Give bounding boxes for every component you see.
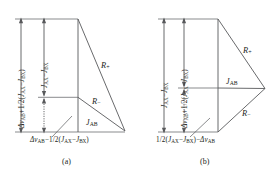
- outer-arrowhead-bottom: [19, 128, 23, 134]
- panel-b-r-plus-label: R+: [243, 47, 252, 55]
- panel-a-caption: (a): [62, 157, 71, 166]
- j-ab-vector: [218, 88, 265, 89]
- inner-lower-arrowhead-top: [42, 98, 46, 104]
- panel-a-outer-span-label: ΔνAB+1/2(JAX−JBX): [19, 69, 26, 128]
- inner-lower-arrowhead-bottom: [42, 128, 46, 134]
- inner-arrowhead-top: [182, 18, 186, 24]
- bottom-label-leader-line: [190, 118, 210, 137]
- panel-a-r-plus-label: R+: [101, 62, 110, 70]
- panel-a-bottom-span-label: ΔνAB−1/2(JAX−JBX): [30, 137, 89, 144]
- outer-arrowhead-top: [162, 18, 166, 24]
- figure-root: ΔνAB+1/2(JAX−JBX) JAX−JBX R+ R− JAB ΔνAB…: [0, 0, 280, 177]
- panel-b: JAX−JBX ΔνAB+1/2(JAX−JBX) R+ JAB R− 1/2(…: [140, 0, 280, 177]
- inner-lower-arrowhead-bottom: [182, 128, 186, 134]
- panel-a-r-minus-label: R−: [92, 98, 101, 106]
- panel-b-j-ab-label: JAB: [226, 78, 238, 87]
- panel-b-outer-span-label: JAX−JBX: [162, 83, 169, 108]
- panel-b-geometry: [140, 0, 280, 177]
- panel-b-caption: (b): [200, 157, 209, 166]
- outer-arrowhead-bottom: [162, 128, 166, 134]
- outer-arrowhead-top: [19, 18, 23, 24]
- bottom-label-leader-line: [52, 116, 72, 137]
- panel-b-r-minus-label: R−: [242, 110, 251, 118]
- panel-b-bottom-span-label: 1/2(JAX−JBX)−ΔνAB: [156, 137, 215, 144]
- panel-a: ΔνAB+1/2(JAX−JBX) JAX−JBX R+ R− JAB ΔνAB…: [0, 0, 140, 177]
- inner-arrowhead-bottom: [42, 91, 46, 97]
- panel-b-inner-span-label: ΔνAB+1/2(JAX−JBX): [182, 69, 189, 128]
- panel-a-inner-span-label: JAX−JBX: [42, 63, 49, 88]
- inner-arrowhead-top: [42, 18, 46, 24]
- panel-a-j-ab-label: JAB: [86, 119, 98, 128]
